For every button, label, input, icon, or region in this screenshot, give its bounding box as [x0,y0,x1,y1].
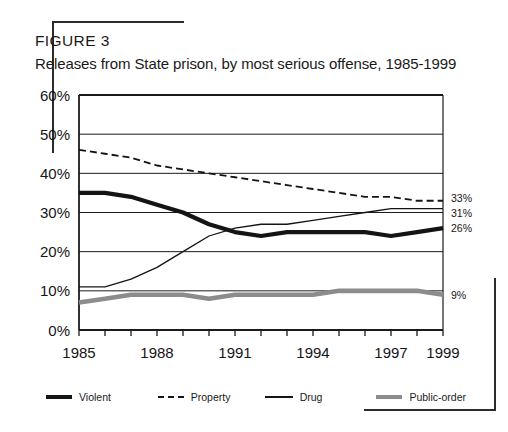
y-axis-tick-label: 20% [40,243,70,260]
property-dashed-line-swatch-icon [158,396,184,398]
chart-legend: Violent Property Drug Public-order [46,386,466,408]
figure-container: FIGURE 3 Releases from State prison, by … [0,0,508,432]
y-axis-tick-label: 40% [40,165,70,182]
series-line-violent [79,193,443,236]
x-axis-tick-label: 1994 [296,344,329,361]
x-axis-tick-label: 1985 [62,344,95,361]
series-line-property [79,150,443,201]
frame-bottom-border [364,409,496,411]
public-order-line-swatch-icon [376,395,402,399]
end-label-public-order: 9% [451,289,466,301]
line-chart: 0%10%20%30%40%50%60%19851988199119941997… [0,0,508,380]
end-label-property: 33% [451,192,472,204]
series-line-drug [79,209,443,287]
y-axis-tick-label: 30% [40,204,70,221]
end-label-violent: 26% [451,222,472,234]
legend-item-violent: Violent [46,391,158,403]
end-label-drug: 31% [451,207,472,219]
legend-label-property: Property [191,391,231,403]
legend-item-public-order: Public-order [376,391,466,403]
y-axis-tick-label: 50% [40,126,70,143]
x-axis-tick-label: 1997 [374,344,407,361]
legend-label-drug: Drug [300,391,323,403]
x-axis-tick-label: 1988 [140,344,173,361]
x-axis-tick-label: 1991 [218,344,251,361]
y-axis-tick-label: 0% [48,322,70,339]
series-line-public-order [79,291,443,303]
x-axis-tick-label: 1999 [426,344,459,361]
legend-label-violent: Violent [79,391,111,403]
legend-item-drug: Drug [265,391,377,403]
y-axis-tick-label: 10% [40,282,70,299]
y-axis-tick-label: 60% [40,87,70,104]
legend-label-public-order: Public-order [409,391,466,403]
drug-line-swatch-icon [265,396,293,397]
legend-item-property: Property [158,391,265,403]
violent-line-swatch-icon [46,395,72,399]
